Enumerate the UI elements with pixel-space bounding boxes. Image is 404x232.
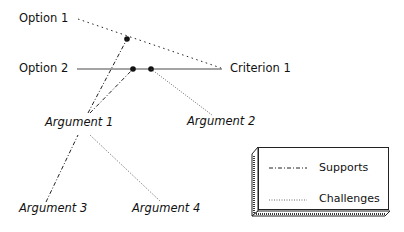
node-option-1: Option 1 bbox=[19, 13, 68, 25]
edge-argument1-link2 bbox=[90, 69, 133, 113]
challenges-line-sample bbox=[269, 197, 309, 203]
edge-option1-criterion1 bbox=[78, 19, 221, 68]
node-argument-4: Argument 4 bbox=[132, 203, 200, 215]
node-argument-3: Argument 3 bbox=[19, 203, 87, 215]
edge-argument1-link1 bbox=[88, 39, 127, 113]
edge-argument4-argument1 bbox=[90, 135, 160, 201]
legend: Supports Challenges bbox=[258, 147, 389, 210]
legend-challenges-label: Challenges bbox=[319, 193, 380, 204]
edge-argument2-link3 bbox=[151, 69, 212, 115]
edge-argument3-argument1 bbox=[46, 135, 78, 202]
legend-supports-label: Supports bbox=[319, 162, 368, 173]
node-argument-2: Argument 2 bbox=[187, 116, 255, 128]
node-option-2: Option 2 bbox=[19, 63, 68, 75]
node-argument-1: Argument 1 bbox=[45, 117, 113, 129]
supports-line-sample bbox=[269, 165, 309, 171]
node-criterion-1: Criterion 1 bbox=[230, 63, 291, 75]
